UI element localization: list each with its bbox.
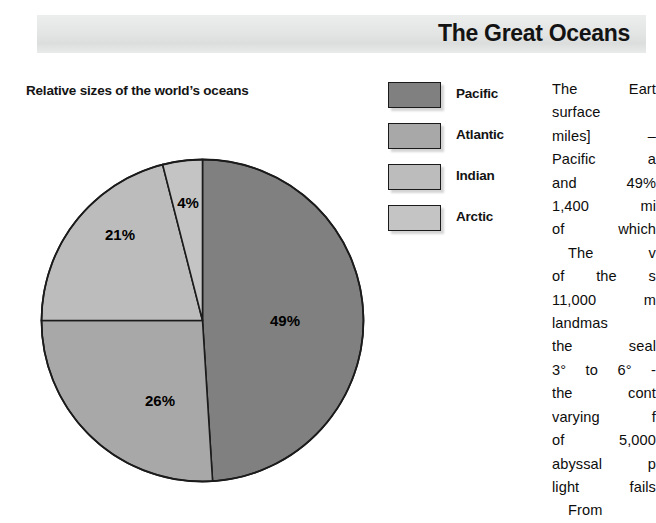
legend-item-atlantic: Atlantic [388, 123, 528, 164]
article-line: 11,000 m [552, 289, 656, 312]
article-line: light fails [552, 476, 656, 499]
pie-label-pacific: 49% [270, 312, 300, 329]
article-line: varying f [552, 406, 656, 429]
legend-item-indian: Indian [388, 164, 528, 205]
legend-label-indian: Indian [456, 168, 495, 183]
article-line: of 5,000 [552, 429, 656, 452]
pie-label-indian: 21% [105, 226, 135, 243]
legend-swatch-arctic [388, 205, 441, 231]
article-line: and 49% [552, 172, 656, 195]
article-line: the cont [552, 382, 656, 405]
legend-item-pacific: Pacific [388, 82, 528, 123]
article-line: Pacific a [552, 148, 656, 171]
figure-block: Relative sizes of the world’s oceans 49%… [0, 0, 530, 523]
legend-swatch-pacific [388, 82, 441, 108]
legend-label-arctic: Arctic [456, 209, 493, 224]
article-line: The Eart [552, 78, 656, 101]
article-line: landmas [552, 312, 656, 335]
pie-slice-atlantic [42, 321, 213, 482]
article-line: miles] – [552, 125, 656, 148]
article-line: surface [552, 101, 656, 124]
article-line: 1,400 mi [552, 195, 656, 218]
article-line: From [552, 499, 656, 522]
pie-label-arctic: 4% [177, 194, 199, 211]
article-line: the seal [552, 335, 656, 358]
article-line: The v [552, 242, 656, 265]
article-line: 3° to 6° - [552, 359, 656, 382]
legend-label-atlantic: Atlantic [456, 127, 504, 142]
legend-swatch-atlantic [388, 123, 441, 149]
chart-title: Relative sizes of the world’s oceans [26, 83, 249, 98]
article-line: abyssal p [552, 453, 656, 476]
article-line: of the s [552, 265, 656, 288]
legend-label-pacific: Pacific [456, 86, 498, 101]
pie-label-atlantic: 26% [145, 392, 175, 409]
legend-swatch-indian [388, 164, 441, 190]
article-text-column: The Eartsurfacemiles] –Pacific aand 49%1… [552, 78, 656, 523]
pie-chart: 49% 26% 21% 4% [40, 158, 365, 483]
article-line: of which [552, 218, 656, 241]
legend-item-arctic: Arctic [388, 205, 528, 246]
chart-legend: Pacific Atlantic Indian Arctic [388, 82, 528, 246]
